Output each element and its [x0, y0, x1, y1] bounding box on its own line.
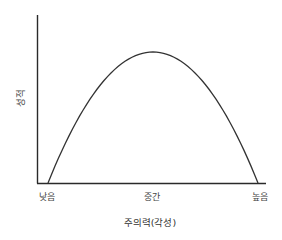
performance-curve: [48, 52, 258, 183]
chart-canvas: [0, 0, 282, 240]
x-tick-high: 높음: [252, 190, 268, 203]
y-axis-title: 성적: [13, 89, 27, 107]
x-tick-low: 낮음: [39, 190, 55, 203]
x-axis-title: 주의력(각성): [124, 215, 176, 229]
x-tick-mid: 중간: [144, 190, 160, 203]
